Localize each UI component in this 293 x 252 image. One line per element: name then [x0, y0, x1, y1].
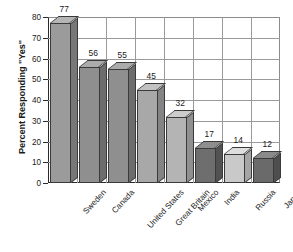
bar [253, 158, 273, 183]
y-tick-mark [43, 121, 48, 122]
bar-front-face [166, 117, 186, 183]
x-axis-label: Japan [282, 188, 293, 210]
y-tick-mark [43, 38, 48, 39]
bar-value-label: 12 [263, 139, 272, 149]
bar [137, 90, 157, 183]
bar [195, 148, 215, 183]
y-tick-label: 50 [32, 75, 41, 84]
y-tick-mark [43, 162, 48, 163]
x-axis-label: Canada [110, 188, 136, 215]
bar-value-label: 77 [60, 4, 69, 14]
bar-front-face [224, 154, 244, 183]
bar-value-label: 17 [205, 129, 214, 139]
bar-value-label: 56 [89, 48, 98, 58]
y-tick-label: 30 [32, 116, 41, 125]
bar-side-face [100, 61, 107, 183]
plot-area: 01020304050607080 7756554532171412 Swede… [48, 17, 280, 183]
x-axis-label: India [222, 188, 241, 207]
y-tick-label: 20 [32, 137, 41, 146]
bar-side-face [71, 18, 78, 183]
y-tick-mark [43, 79, 48, 80]
y-tick-mark [43, 183, 48, 184]
bar-side-face [216, 142, 223, 183]
x-axis-label: Sweden [81, 188, 108, 216]
bar-value-label: 32 [176, 98, 185, 108]
bar-value-label: 14 [234, 135, 243, 145]
y-tick-label: 60 [32, 54, 41, 63]
x-axis-label: Russia [254, 188, 278, 212]
bar [224, 154, 244, 183]
bar-side-face [129, 63, 136, 183]
bar-front-face [79, 67, 99, 183]
bar [108, 69, 128, 183]
y-tick-label: 10 [32, 158, 41, 167]
bar-front-face [137, 90, 157, 183]
bar-side-face [274, 153, 281, 183]
bar-front-face [195, 148, 215, 183]
y-tick-mark [43, 100, 48, 101]
y-tick-label: 70 [32, 33, 41, 42]
bar-front-face [108, 69, 128, 183]
y-tick-label: 0 [36, 179, 41, 188]
y-tick-mark [43, 142, 48, 143]
bar-value-label: 55 [118, 50, 127, 60]
bar-front-face [253, 158, 273, 183]
y-tick-label: 40 [32, 96, 41, 105]
bar-front-face [50, 23, 70, 183]
bar-side-face [158, 84, 165, 183]
bar [166, 117, 186, 183]
y-axis-title: Percent Responding "Yes" [17, 12, 27, 182]
bar-side-face [245, 148, 252, 183]
y-tick-mark [43, 17, 48, 18]
bar-value-label: 45 [147, 71, 156, 81]
bar [79, 67, 99, 183]
bar [50, 23, 70, 183]
bar-side-face [187, 111, 194, 183]
bar-chart: Percent Responding "Yes" 010203040506070… [0, 0, 293, 252]
y-tick-mark [43, 59, 48, 60]
y-tick-label: 80 [32, 13, 41, 22]
